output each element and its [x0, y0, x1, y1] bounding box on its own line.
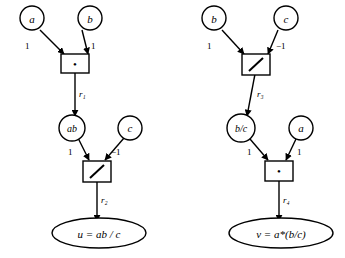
operator-multiply-left[interactable]: •	[61, 54, 89, 73]
weight-a-multiply: 1	[25, 41, 30, 51]
node-ab-label: ab	[67, 123, 77, 134]
edge-bc-to-multiply-right	[250, 139, 268, 160]
edge-a-to-multiply-right	[286, 139, 296, 160]
weight-a-multiply-right: 1	[297, 147, 302, 157]
node-a-right-label: a	[298, 122, 304, 134]
result-node-v-label: v = a*(b/c)	[256, 228, 306, 241]
node-b-right[interactable]: b	[202, 6, 226, 30]
node-a-left-label: a	[29, 13, 35, 25]
edge-label-r2: r₂	[101, 195, 108, 205]
result-node-u[interactable]: u = ab / c	[52, 218, 146, 248]
node-bc[interactable]: b/c	[227, 114, 255, 142]
multiply-icon: •	[73, 58, 77, 70]
multiply-icon: •	[277, 165, 281, 177]
edge-label-r3: r₃	[257, 89, 264, 99]
edge-a-to-multiply	[40, 30, 64, 54]
edge-label-r1: r₁	[79, 89, 86, 99]
result-node-u-label: u = ab / c	[78, 228, 121, 240]
node-c-left[interactable]: c	[118, 116, 142, 140]
operator-multiply-right[interactable]: •	[265, 161, 293, 181]
node-c-right-label: c	[284, 13, 289, 25]
node-c-right[interactable]: c	[274, 6, 298, 30]
result-node-v[interactable]: v = a*(b/c)	[229, 218, 333, 248]
left-graph: a b 1 1 • r₁ ab c 1 −1	[20, 6, 146, 248]
node-a-left[interactable]: a	[20, 6, 44, 30]
operator-divide-left[interactable]	[83, 161, 111, 182]
weight-b-divide-right: 1	[207, 41, 212, 51]
node-bc-label: b/c	[235, 123, 248, 134]
edge-ab-to-divide	[78, 138, 89, 160]
weight-c-divide-right: −1	[276, 41, 286, 51]
weight-ab-divide: 1	[68, 147, 73, 157]
node-a-right[interactable]: a	[289, 116, 313, 140]
weight-b-multiply: 1	[91, 41, 96, 51]
dataflow-diagram: a b 1 1 • r₁ ab c 1 −1	[0, 0, 345, 258]
node-b-left[interactable]: b	[78, 6, 102, 30]
node-ab[interactable]: ab	[59, 115, 85, 141]
edge-label-r4: r₄	[283, 195, 290, 205]
weight-c-divide: −1	[111, 147, 121, 157]
edge-b-to-divide-right	[222, 30, 244, 54]
node-b-left-label: b	[87, 13, 93, 25]
edge-divide-to-bc	[247, 74, 255, 116]
edge-b-to-multiply-line	[82, 30, 88, 54]
node-c-left-label: c	[128, 122, 133, 134]
right-graph: b c 1 −1 r₃ b/c a 1 1	[202, 6, 333, 248]
operator-divide-right[interactable]	[242, 54, 270, 75]
node-b-right-label: b	[211, 13, 217, 25]
weight-bc-multiply: 1	[247, 147, 252, 157]
